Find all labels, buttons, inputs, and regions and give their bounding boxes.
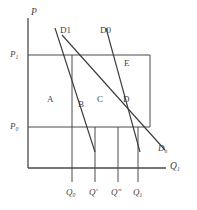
price-label-high-text: P xyxy=(10,49,16,59)
quantity-label-q0-sub: 0 xyxy=(73,192,76,198)
quantity-label-q1-sub: 1 xyxy=(140,192,143,198)
region-label-a: A xyxy=(47,95,54,104)
region-label-e: E xyxy=(124,59,130,68)
quantity-label-q1: Q1 xyxy=(133,188,142,197)
supply-demand-figure: P Q1 P1 P0 Q0 Q' Q" Q1 D1 D0 Dn A B C D … xyxy=(0,0,197,210)
x-axis-label: Q1 xyxy=(170,162,180,172)
region-label-c: C xyxy=(97,95,103,104)
region-label-d: D xyxy=(123,95,130,104)
quantity-label-q-prime: Q' xyxy=(89,188,97,197)
figure-canvas xyxy=(0,0,197,210)
demand-label-dn-sub: n xyxy=(165,148,168,154)
price-label-low-sub: 0 xyxy=(16,126,19,132)
region-label-b: B xyxy=(78,100,84,109)
quantity-label-q1-text: Q xyxy=(133,187,140,197)
demand-label-d0: D0 xyxy=(100,26,111,35)
quantity-label-q0-text: Q xyxy=(66,187,73,197)
price-label-low-text: P xyxy=(10,121,16,131)
demand-label-dn: Dn xyxy=(158,144,167,153)
x-axis-label-text: Q xyxy=(170,161,177,171)
quantity-label-q0: Q0 xyxy=(66,188,75,197)
x-axis-label-sub: 1 xyxy=(177,166,180,172)
price-label-high-sub: 1 xyxy=(16,54,19,60)
demand-label-dn-text: D xyxy=(158,143,165,153)
demand-curve-d1 xyxy=(55,28,95,152)
demand-label-d1: D1 xyxy=(60,26,71,35)
quantity-label-q-doubleprime: Q" xyxy=(111,188,121,197)
price-label-high: P1 xyxy=(10,50,18,59)
price-label-low: P0 xyxy=(10,122,18,131)
y-axis-label: P xyxy=(31,8,37,18)
